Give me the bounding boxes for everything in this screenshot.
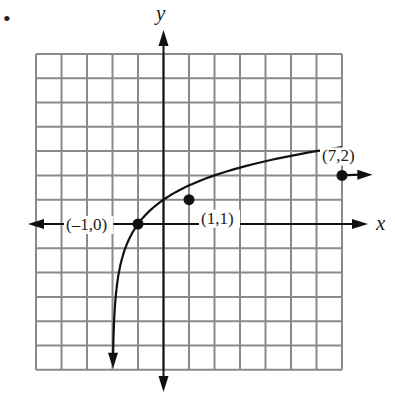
x-axis-label: x xyxy=(375,211,386,235)
y-axis-label: y xyxy=(154,1,166,25)
log-function-graph: • (–1,0)(1,1)(7,2) x y xyxy=(0,0,395,393)
function-curve xyxy=(113,147,342,363)
point-label: (–1,0) xyxy=(66,215,107,234)
grid xyxy=(36,54,342,370)
problem-bullet: • xyxy=(3,6,11,31)
point-label: (1,1) xyxy=(201,209,234,228)
point-label: (7,2) xyxy=(322,146,355,165)
